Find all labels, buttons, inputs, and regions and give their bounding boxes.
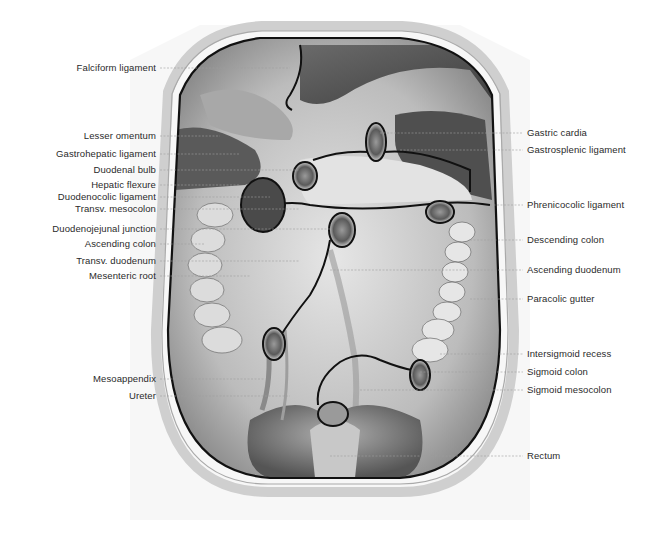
label-hepatic-flexure: Hepatic flexure	[91, 179, 156, 190]
label-paracolic-gutter: Paracolic gutter	[527, 293, 595, 304]
label-duodenocolic-ligament: Duodenocolic ligament	[58, 191, 156, 202]
cut-splenic-flexure	[426, 201, 454, 223]
cut-rectum	[318, 402, 348, 426]
cut-duodenojejunal	[329, 213, 355, 247]
anatomy-figure: Falciform ligament Lesser omentum Gastro…	[0, 0, 652, 548]
cut-sigmoid	[410, 360, 430, 390]
rectum-bulge	[310, 420, 360, 478]
label-sigmoid-mesocolon: Sigmoid mesocolon	[527, 384, 612, 395]
label-ascending-colon: Ascending colon	[85, 238, 156, 249]
label-descending-colon: Descending colon	[527, 234, 604, 245]
label-falciform-ligament: Falciform ligament	[77, 62, 156, 73]
label-phrenicocolic-ligament: Phrenicocolic ligament	[527, 199, 624, 210]
label-gastrohepatic-ligament: Gastrohepatic ligament	[56, 148, 156, 159]
cut-gastric-cardia	[366, 123, 386, 161]
label-lesser-omentum: Lesser omentum	[84, 130, 156, 141]
cut-ileum	[263, 328, 285, 360]
label-duodenojejunal-junction: Duodenojejunal junction	[52, 223, 156, 234]
label-sigmoid-colon: Sigmoid colon	[527, 366, 588, 377]
label-duodenal-bulb: Duodenal bulb	[93, 164, 156, 175]
label-gastric-cardia: Gastric cardia	[527, 127, 587, 138]
cut-duodenal-bulb	[293, 162, 317, 190]
label-mesoappendix: Mesoappendix	[93, 373, 156, 384]
label-transv-mesocolon: Transv. mesocolon	[75, 203, 156, 214]
label-ascending-duodenum: Ascending duodenum	[527, 264, 621, 275]
label-rectum: Rectum	[527, 450, 560, 461]
label-ureter: Ureter	[129, 390, 156, 401]
label-gastrosplenic-ligament: Gastrosplenic ligament	[527, 144, 626, 155]
cut-hepatic-flexure	[241, 178, 285, 232]
label-transv-duodenum: Transv. duodenum	[76, 255, 156, 266]
label-intersigmoid-recess: Intersigmoid recess	[527, 348, 611, 359]
label-mesenteric-root: Mesenteric root	[89, 270, 156, 281]
